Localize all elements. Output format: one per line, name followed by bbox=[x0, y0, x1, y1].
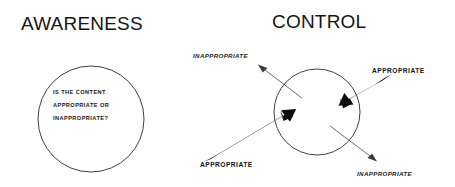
thin-arrow-outward-icon-top-left bbox=[258, 65, 302, 98]
control-label-bottom-left: APPROPRIATE bbox=[200, 161, 253, 168]
awareness-control-figure: AWARENESS IS THE CONTENT APPROPRIATE OR … bbox=[0, 0, 455, 187]
panel-title-awareness: AWARENESS bbox=[21, 13, 143, 34]
awareness-circle-line-1: IS THE CONTENT bbox=[53, 89, 106, 95]
panel-title-control: CONTROL bbox=[272, 11, 366, 32]
thick-arrow-inward-icon-top-right bbox=[339, 74, 393, 108]
control-label-top-right: APPROPRIATE bbox=[372, 67, 425, 74]
awareness-circle-line-2: APPROPRIATE OR bbox=[53, 102, 109, 108]
thin-arrow-outward-icon-bottom-right bbox=[330, 126, 377, 161]
control-label-bottom-right: INAPPROPRIATE bbox=[357, 170, 412, 177]
control-label-top-left: INAPPROPRIATE bbox=[193, 52, 248, 59]
awareness-circle-line-3: INAPPROPRIATE? bbox=[53, 115, 108, 121]
diagram-canvas: AWARENESS IS THE CONTENT APPROPRIATE OR … bbox=[0, 0, 455, 187]
thick-arrow-inward-icon-bottom-left bbox=[204, 109, 296, 162]
